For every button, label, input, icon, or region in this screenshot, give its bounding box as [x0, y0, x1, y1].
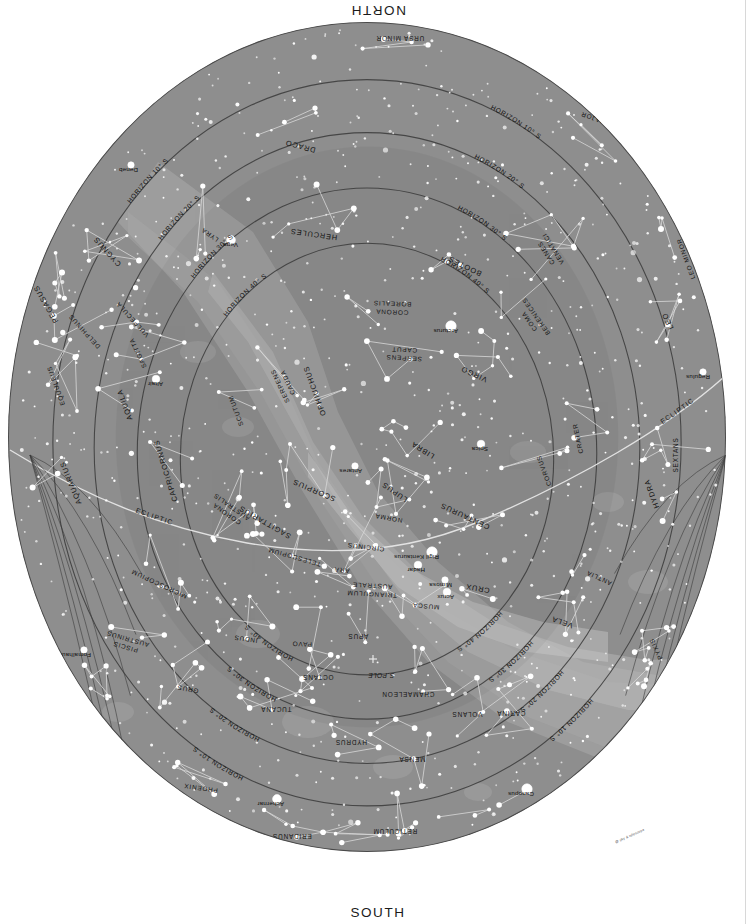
svg-text:S.POLE: S.POLE	[368, 672, 394, 679]
svg-text:DORADO: DORADO	[444, 844, 477, 851]
svg-text:Spica: Spica	[471, 446, 488, 453]
star-chart-root: NORTH SOUTH EAST WEST @ sky & telescope …	[0, 0, 756, 924]
svg-text:Regulus: Regulus	[686, 374, 710, 381]
svg-text:Arcturus: Arcturus	[433, 328, 458, 335]
sky-disc[interactable]: ECLIPTICECLIPTIC URSA MINORURSA MAJORDRA…	[8, 22, 726, 852]
svg-text:PUPPIS: PUPPIS	[656, 687, 675, 715]
svg-text:Canopus: Canopus	[508, 791, 534, 798]
svg-text:TRIANGULUMAUSTRALE: TRIANGULUMAUSTRALE	[347, 581, 398, 599]
svg-text:Achernar: Achernar	[257, 801, 284, 808]
svg-text:Antares: Antares	[339, 468, 362, 475]
svg-text:PAVO: PAVO	[292, 641, 312, 649]
svg-text:MENSA: MENSA	[399, 756, 426, 763]
svg-text:OCTANS: OCTANS	[303, 674, 334, 681]
svg-text:Altair: Altair	[148, 381, 163, 388]
sky-map-svg[interactable]: ECLIPTICECLIPTIC URSA MINORURSA MAJORDRA…	[8, 22, 726, 852]
svg-text:Fomalhaut: Fomalhaut	[60, 652, 91, 659]
svg-text:PICTOR: PICTOR	[505, 828, 534, 835]
page-edge-strip	[745, 0, 756, 924]
cardinal-label-north: NORTH	[0, 3, 756, 18]
svg-text:ERIDANUS: ERIDANUS	[272, 833, 311, 840]
svg-text:HYDRUS: HYDRUS	[335, 739, 367, 746]
svg-text:Acrux: Acrux	[436, 594, 454, 601]
svg-text:VOLANS: VOLANS	[452, 711, 483, 718]
svg-text:Deneb: Deneb	[118, 167, 138, 174]
svg-text:APUS: APUS	[348, 633, 369, 640]
svg-text:TUCANA: TUCANA	[260, 706, 291, 713]
svg-text:Rigil Kentaurus: Rigil Kentaurus	[394, 554, 439, 561]
cardinal-label-south: SOUTH	[0, 905, 756, 920]
svg-text:Hadar: Hadar	[407, 567, 425, 574]
svg-text:CHAMAELEON: CHAMAELEON	[382, 691, 435, 698]
svg-text:URSA MINOR: URSA MINOR	[376, 35, 424, 42]
svg-text:RETICULUM: RETICULUM	[373, 828, 417, 835]
svg-text:Mimosa: Mimosa	[429, 582, 452, 589]
svg-text:SEXTANS: SEXTANS	[672, 438, 679, 473]
